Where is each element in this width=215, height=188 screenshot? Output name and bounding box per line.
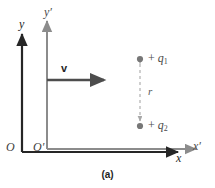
origin-label-unprimed: O: [6, 141, 15, 153]
charge-q2-sign: +: [148, 118, 155, 132]
origin-label-primed: O′: [33, 141, 44, 153]
figure-caption: (a): [0, 169, 215, 180]
charge-q2-subscript: 2: [164, 124, 168, 133]
charge-q1-subscript: 1: [164, 57, 168, 66]
figure-drawing-canvas: [0, 0, 215, 188]
x-prime-axis-label: x′: [193, 140, 201, 152]
separation-distance-label: r: [148, 86, 152, 97]
y-axis-label: y: [19, 18, 24, 30]
charge-q2-label: + q2: [148, 119, 168, 133]
physics-figure-two-reference-frames: y y′ x x′ O O′ v + q1 + q2 r (a): [0, 0, 215, 188]
y-prime-axis-label: y′: [44, 6, 52, 18]
charge-q1-dot: [137, 56, 143, 62]
velocity-vector-label: v: [61, 63, 67, 74]
charge-q2-dot: [137, 123, 143, 129]
x-axis-label: x: [176, 152, 181, 164]
charge-q1-sign: +: [148, 51, 155, 65]
charge-q1-label: + q1: [148, 52, 168, 66]
primed-frame-axes: [47, 21, 196, 149]
